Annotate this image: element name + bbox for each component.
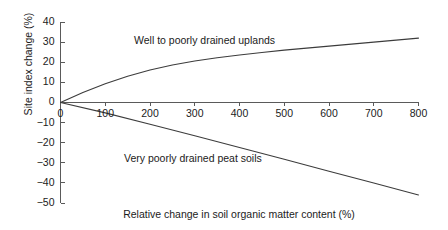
x-axis-tick-label: 400	[220, 108, 260, 119]
y-axis-title: Site index change (%)	[22, 0, 34, 139]
x-axis-tick-label: 800	[399, 108, 439, 119]
x-axis-tick-label: 500	[264, 108, 304, 119]
chart-figure: 403020100−10−20−30−40−50 010020030040050…	[0, 0, 448, 230]
series-line-uplands	[61, 38, 419, 102]
y-axis-tick-label: −50	[21, 197, 55, 208]
x-axis-title: Relative change in soil organic matter c…	[60, 208, 418, 220]
x-axis-tick-label: 0	[41, 108, 81, 119]
y-axis-tick-label: −40	[21, 177, 55, 188]
series-annotation-peat: Very poorly drained peat soils	[124, 152, 262, 164]
x-axis-tick-label: 200	[130, 108, 170, 119]
x-axis-tick-label: 700	[354, 108, 394, 119]
x-axis-tick-label: 100	[85, 108, 125, 119]
x-axis-tick-label: 300	[175, 108, 215, 119]
y-axis-tick-label: −30	[21, 157, 55, 168]
series-annotation-uplands: Well to poorly drained uplands	[134, 34, 275, 46]
x-axis-tick-label: 600	[309, 108, 349, 119]
